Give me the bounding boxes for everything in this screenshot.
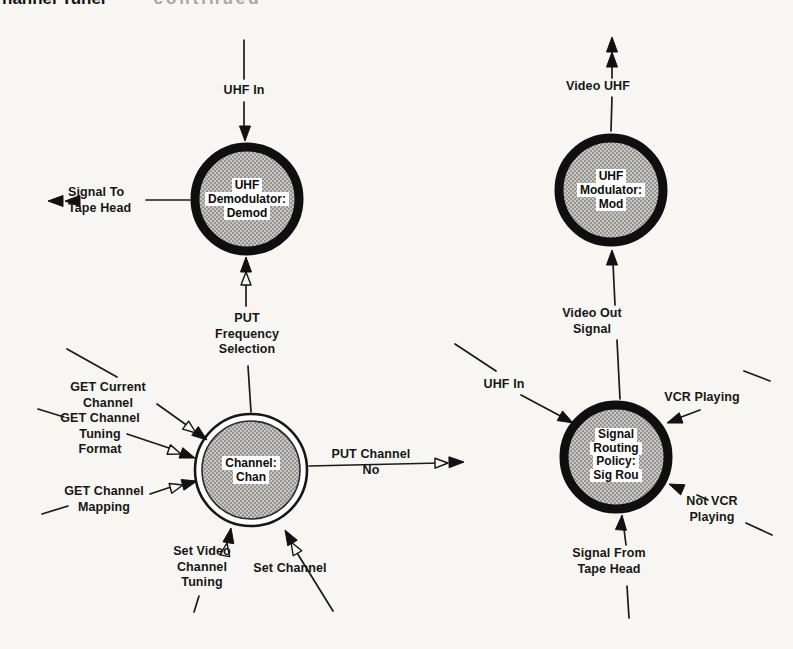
flow-label-get-channel-mapping: GET Channel Mapping [48, 484, 160, 515]
arrowhead-uhf-in-right [557, 411, 573, 423]
arrowhead-put-channel-hollow [435, 458, 448, 468]
flow-label-put-channel-no: PUT Channel No [322, 447, 420, 478]
line-set-video-tail [194, 596, 199, 612]
node-label-channel: Channel: Chan [196, 456, 306, 484]
line-uhf-in-right-arrow [521, 395, 566, 419]
arrowhead-video-out [607, 250, 618, 265]
line-vcr-playing-tail [744, 371, 770, 381]
diagram-page: hannel Tunercontinued UHF In Signal To T… [0, 0, 793, 649]
node-label-line: Mod [596, 197, 627, 211]
node-label-line: Sig Rou [590, 469, 641, 483]
arrowhead-signal-from [615, 515, 626, 530]
node-label-uhf-demodulator: UHF Demodulator: Demod [190, 178, 304, 220]
arrowhead-signal-to-tape-1 [48, 196, 63, 207]
flow-lines [38, 40, 772, 618]
node-label-line: Chan [233, 470, 269, 484]
line-put-frequency-bottom [248, 366, 251, 412]
node-label-line: UHF [596, 169, 627, 183]
flow-label-video-out-signal: Video Out Signal [546, 306, 638, 337]
flow-label-vcr-playing: VCR Playing [656, 390, 748, 406]
flow-label-set-channel: Set Channel [244, 561, 336, 577]
line-get-current-tail [67, 349, 117, 377]
node-label-line: Policy: [593, 455, 638, 469]
arrowhead-get-tuning-hollow [167, 445, 181, 454]
node-label-line: Demodulator: [205, 192, 289, 206]
flow-label-signal-from-tape-head: Signal From Tape Head [557, 546, 661, 577]
arrowhead-get-mapping-hollow [169, 484, 183, 494]
line-video-out-top [613, 263, 615, 305]
arrowhead-set-video-solid [223, 528, 234, 544]
arrowhead-video-uhf-2 [607, 52, 618, 67]
diagram-canvas [0, 0, 793, 649]
arrowhead-put-channel-solid [449, 457, 464, 468]
line-signal-from-tail [627, 586, 629, 618]
arrowhead-get-tuning-solid [179, 448, 195, 458]
arrowhead-set-channel-hollow [291, 542, 302, 556]
flow-label-not-vcr-playing: Not VCR Playing [671, 494, 753, 525]
node-label-line: Channel: [222, 456, 279, 470]
node-label-uhf-modulator: UHF Modulator: Mod [554, 169, 668, 211]
arrowhead-put-frequency-solid [241, 257, 252, 272]
node-label-signal-routing-policy: Signal Routing Policy: Sig Rou [562, 428, 670, 482]
node-label-line: Routing [590, 442, 641, 456]
arrowhead-uhf-in [240, 126, 251, 141]
arrowhead-put-frequency-hollow [241, 272, 251, 285]
line-uhf-in-right-tail [455, 344, 496, 371]
flow-label-set-video-channel-tuning: Set Video Channel Tuning [152, 544, 252, 591]
arrowhead-vcr-playing [667, 413, 683, 423]
flow-label-uhf-in-left: UHF In [204, 83, 284, 99]
flow-label-signal-to-tape-head: Signal To Tape Head [68, 185, 144, 216]
node-label-line: Signal [595, 428, 637, 442]
line-set-channel [294, 548, 333, 611]
line-signal-from-top [624, 529, 626, 545]
node-label-line: Modulator: [577, 183, 645, 197]
flow-label-put-frequency-selection: PUT Frequency Selection [197, 311, 297, 358]
flow-label-uhf-in-right: UHF In [468, 377, 540, 393]
line-video-uhf-bottom [611, 97, 612, 131]
flow-label-get-channel-tuning-format: GET Channel Tuning Format [44, 411, 156, 458]
line-video-out-bottom [617, 340, 620, 399]
node-label-line: UHF [232, 178, 263, 192]
node-label-line: Demod [224, 206, 271, 220]
flow-label-video-uhf: Video UHF [556, 79, 640, 95]
flow-label-get-current-channel: GET Current Channel [52, 380, 164, 411]
arrowhead-video-uhf-1 [607, 37, 618, 52]
